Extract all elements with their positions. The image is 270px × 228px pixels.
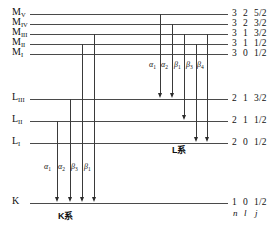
transition-subscript: 2	[165, 64, 168, 70]
level-label-subscript: II	[18, 118, 22, 125]
quantum-numbers-m1: 301/2	[232, 49, 267, 59]
energy-level-line-l2	[30, 121, 228, 122]
transition-subscript: 4	[201, 64, 204, 70]
level-label-subscript: I	[18, 140, 20, 147]
level-label-letter: M	[12, 46, 21, 57]
level-label-l3: LIII	[12, 92, 25, 102]
transition-subscript: 1	[48, 166, 51, 172]
quantum-number-n: 1	[232, 198, 243, 208]
transition-label-l-a1: α1	[149, 61, 156, 69]
header-n: n	[233, 209, 244, 218]
quantum-number-l: 1	[243, 116, 254, 126]
transition-label-k-a1: α1	[44, 163, 51, 171]
transition-arrowhead-l-b3	[194, 137, 198, 142]
quantum-number-l: 1	[243, 94, 254, 104]
transition-arrowhead-l-a2	[170, 93, 174, 98]
energy-level-line-m5	[30, 14, 228, 15]
transition-line-l-b3	[196, 44, 197, 138]
transition-arrowhead-k-a1	[55, 197, 59, 202]
xray-level-diagram: MV325/2MIV323/2MIII313/2MII311/2MI301/2L…	[0, 0, 270, 228]
transition-line-l-b4	[207, 34, 208, 138]
level-label-l1: LI	[12, 136, 20, 146]
transition-subscript: 1	[153, 64, 156, 70]
quantum-number-l: 0	[243, 138, 254, 148]
series-label-k-series: K系	[58, 212, 74, 221]
level-label-m1: MI	[12, 47, 23, 57]
quantum-number-j: 1/2	[254, 198, 267, 208]
quantum-number-n: 2	[232, 116, 243, 126]
transition-line-k-a1	[57, 121, 58, 198]
energy-level-line-m1	[30, 54, 228, 55]
level-label-subscript: I	[21, 51, 23, 58]
quantum-numbers-l3: 213/2	[232, 94, 267, 104]
transition-subscript: 3	[190, 64, 193, 70]
transition-line-k-b3	[82, 44, 83, 198]
transition-subscript: 2	[62, 166, 65, 172]
header-l: l	[244, 209, 255, 218]
transition-label-l-b1: β1	[174, 61, 181, 69]
transition-label-l-b4: β4	[197, 61, 204, 69]
energy-level-line-m2	[30, 44, 228, 45]
transition-label-k-a2: α2	[58, 163, 65, 171]
level-label-letter: K	[12, 195, 19, 206]
quantum-number-j: 3/2	[254, 94, 267, 104]
quantum-number-j: 1/2	[254, 138, 267, 148]
quantum-number-header: nlj	[233, 209, 258, 218]
energy-level-line-m4	[30, 24, 228, 25]
quantum-number-j: 1/2	[254, 49, 267, 59]
transition-subscript: 1	[88, 166, 91, 172]
quantum-numbers-l1: 201/2	[232, 138, 267, 148]
transition-label-l-b3: β3	[186, 61, 193, 69]
energy-level-line-l1	[30, 143, 228, 144]
transition-arrowhead-l-b4	[205, 137, 209, 142]
energy-level-line-l3	[30, 99, 228, 100]
transition-arrowhead-k-a2	[68, 197, 72, 202]
transition-subscript: 1	[178, 64, 181, 70]
quantum-number-l: 0	[243, 198, 254, 208]
transition-arrowhead-k-b3	[80, 197, 84, 202]
quantum-number-n: 3	[232, 49, 243, 59]
transition-line-l-b1	[184, 34, 185, 116]
energy-level-line-k	[30, 203, 228, 204]
quantum-number-l: 0	[243, 49, 254, 59]
quantum-number-n: 2	[232, 94, 243, 104]
quantum-numbers-k: 101/2	[232, 198, 267, 208]
transition-line-l-a2	[172, 24, 173, 94]
transition-label-k-b3: β3	[71, 163, 78, 171]
energy-level-line-m3	[30, 34, 228, 35]
level-label-l2: LII	[12, 114, 22, 124]
level-label-k: K	[12, 196, 19, 206]
transition-arrowhead-k-b1	[92, 197, 96, 202]
transition-line-k-a2	[70, 99, 71, 198]
quantum-number-n: 2	[232, 138, 243, 148]
transition-line-l-a1	[160, 14, 161, 94]
transition-arrowhead-l-b1	[182, 115, 186, 120]
series-label-l-series: L系	[172, 146, 187, 155]
transition-label-k-b1: β1	[84, 163, 91, 171]
quantum-numbers-l2: 211/2	[232, 116, 267, 126]
header-j: j	[255, 208, 258, 218]
quantum-number-j: 1/2	[254, 116, 267, 126]
transition-arrowhead-l-a1	[158, 93, 162, 98]
transition-line-k-b1	[94, 34, 95, 198]
transition-label-l-a2: α2	[161, 61, 168, 69]
level-label-subscript: III	[18, 96, 25, 103]
transition-subscript: 3	[75, 166, 78, 172]
